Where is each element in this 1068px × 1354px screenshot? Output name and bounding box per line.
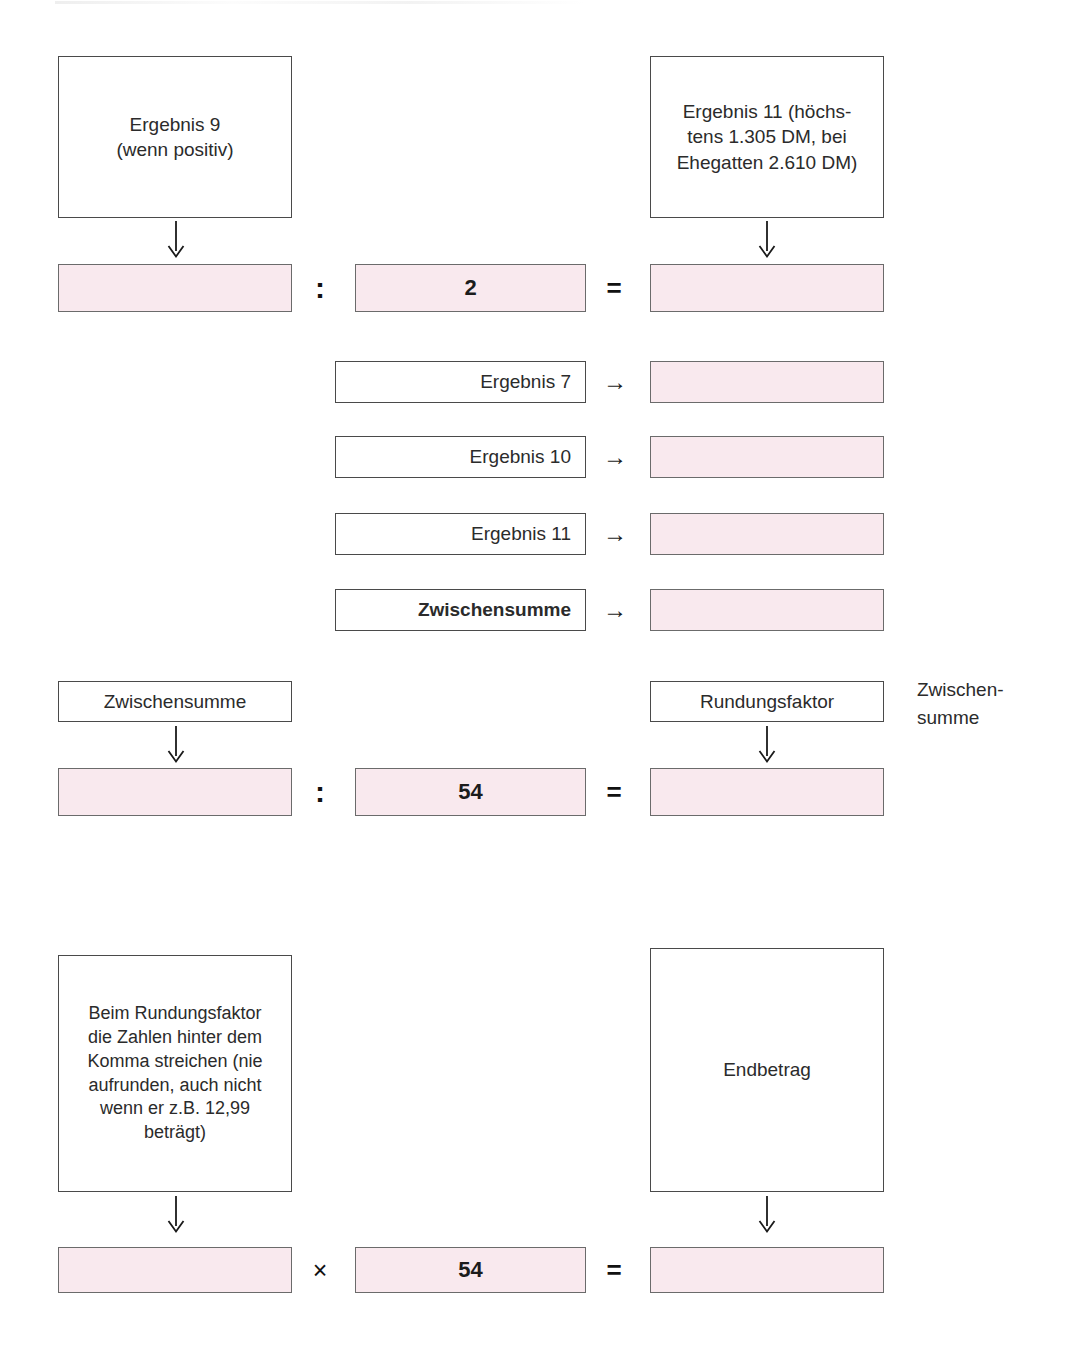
source-box-rundungsfaktor: Rundungsfaktor [650,681,884,722]
arrow-right-icon-row-1: → [598,361,632,403]
input-field-ergebnis-9[interactable] [58,264,292,312]
note-box-line3: Komma streichen (nie [87,1050,262,1074]
input-field-row-ergebnis-7[interactable] [650,361,884,403]
arrow-down-icon-section1-left [166,221,186,259]
operator-divide-section1: : [308,264,332,312]
input-field-divisor-54[interactable]: 54 [355,768,586,816]
input-field-multiplier-54[interactable]: 54 [355,1247,586,1293]
arrow-down-icon-section3-left [166,726,186,764]
input-field-result-section1[interactable] [650,264,884,312]
flowchart-canvas: Ergebnis 9 (wenn positiv) Ergebnis 11 (h… [0,0,1068,1354]
source-box-ergebnis-9-line2: (wenn positiv) [116,137,233,162]
note-box-line2: die Zahlen hinter dem [87,1026,262,1050]
source-box-ergebnis-11: Ergebnis 11 (höchs- tens 1.305 DM, bei E… [650,56,884,218]
source-box-ergebnis-9: Ergebnis 9 (wenn positiv) [58,56,292,218]
input-field-row-zwischensumme[interactable] [650,589,884,631]
operator-equals-section1: = [601,264,627,312]
input-field-row-ergebnis-10[interactable] [650,436,884,478]
operator-divide-section3: : [308,768,332,816]
input-field-zwischensumme-operand[interactable] [58,768,292,816]
input-field-row-ergebnis-11[interactable] [650,513,884,555]
result-box-endbetrag: Endbetrag [650,948,884,1192]
arrow-down-icon-section4-left [166,1196,186,1234]
arrow-down-icon-section3-right [757,726,777,764]
row-label-ergebnis-10: Ergebnis 10 [335,436,586,478]
operator-equals-section3: = [601,768,627,816]
arrow-right-icon-row-4: → [598,589,632,631]
source-box-zwischensumme: Zwischensumme [58,681,292,722]
input-field-divisor-2[interactable]: 2 [355,264,586,312]
note-box-line4: aufrunden, auch nicht [87,1074,262,1098]
row-label-ergebnis-7: Ergebnis 7 [335,361,586,403]
source-box-ergebnis-11-line1: Ergebnis 11 (höchs- [677,99,858,124]
arrow-right-icon-row-2: → [598,436,632,478]
side-note-zwischensumme: Zwischen- summe [917,676,1057,736]
row-label-zwischensumme: Zwischensumme [335,589,586,631]
note-box-line6: beträgt) [87,1121,262,1145]
note-box-line5: wenn er z.B. 12,99 [87,1097,262,1121]
input-field-endbetrag-operand[interactable] [58,1247,292,1293]
input-field-result-section4[interactable] [650,1247,884,1293]
row-label-ergebnis-11: Ergebnis 11 [335,513,586,555]
note-box-rundungsfaktor: Beim Rundungsfaktor die Zahlen hinter de… [58,955,292,1192]
source-box-ergebnis-11-line3: Ehegatten 2.610 DM) [677,150,858,175]
source-box-ergebnis-9-line1: Ergebnis 9 [116,112,233,137]
arrow-right-icon-row-3: → [598,513,632,555]
operator-equals-section4: = [601,1247,627,1293]
input-field-result-section3[interactable] [650,768,884,816]
source-box-ergebnis-11-line2: tens 1.305 DM, bei [677,124,858,149]
note-box-line1: Beim Rundungsfaktor [87,1002,262,1026]
arrow-down-icon-section1-right [757,221,777,259]
scan-artifact [55,1,585,4]
arrow-down-icon-section4-right [757,1196,777,1234]
operator-multiply-section4: × [306,1247,334,1293]
